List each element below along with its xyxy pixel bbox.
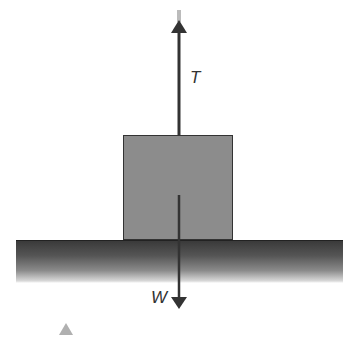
force-arrows — [0, 0, 358, 337]
weight-arrowhead-icon — [171, 297, 187, 309]
tension-label: T — [190, 68, 200, 88]
triangle-marker-icon — [59, 323, 73, 335]
tension-arrowhead-icon — [171, 20, 187, 33]
weight-label: W — [151, 288, 167, 308]
